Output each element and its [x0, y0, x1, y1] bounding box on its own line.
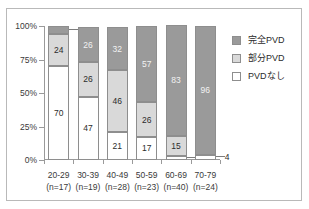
chart-legend: 完全PVD部分PVDPVDなし [232, 36, 285, 90]
bar-value-label: 83 [171, 76, 180, 85]
legend-swatch-full [232, 36, 241, 45]
y-axis-label: 0% [25, 156, 37, 165]
x-axis-tick [161, 160, 162, 164]
legend-swatch-partial [232, 54, 241, 63]
bar-segment-full: 57 [136, 26, 157, 102]
x-axis-tick [191, 160, 192, 164]
y-axis-tick [39, 26, 44, 27]
bar-segment-partial: 46 [107, 70, 128, 132]
stacked-bar: 472626 [78, 26, 99, 160]
stacked-bar: 96 [195, 26, 216, 160]
x-axis-tick [44, 160, 45, 164]
y-axis-label: 75% [20, 55, 37, 64]
y-axis-label: 100% [15, 22, 37, 31]
bar-segment-full: 83 [166, 25, 187, 136]
stacked-bar: 1583 [166, 26, 187, 160]
category-sample-size: (n=24) [183, 181, 227, 193]
chart-figure: 0%25%50%75%100% 670244726262146321726573… [0, 0, 309, 209]
legend-item[interactable]: PVDなし [232, 72, 285, 81]
bar-segment-none: 17 [136, 137, 157, 160]
bar-value-label: 26 [142, 116, 151, 125]
stacked-bar: 7024 [48, 26, 69, 160]
bar-value-label: 70 [54, 109, 63, 118]
legend-swatch-none [232, 72, 241, 81]
y-axis-tick [39, 60, 44, 61]
bar-segment-none: 70 [48, 66, 69, 160]
bar-value-label: 47 [83, 124, 92, 133]
callout-leader-line [216, 156, 225, 157]
bar-segment-partial: 26 [136, 102, 157, 137]
bar-value-label: 15 [171, 142, 180, 151]
bar-segment-full: 32 [107, 27, 128, 70]
plot-axes [44, 26, 220, 160]
bar-value-label: 57 [142, 60, 151, 69]
bar-value-label: 24 [54, 46, 63, 55]
bar-segment-partial: 24 [48, 34, 69, 66]
legend-item[interactable]: 完全PVD [232, 36, 285, 45]
legend-label: PVDなし [248, 72, 285, 81]
y-axis-label: 50% [20, 89, 37, 98]
legend-label: 完全PVD [248, 36, 285, 45]
bar-value-label: 96 [201, 86, 210, 95]
bar-value-label: 32 [113, 45, 122, 54]
bar-value-label: 26 [83, 41, 92, 50]
bar-value-label: 17 [142, 144, 151, 153]
x-axis-tick [220, 160, 221, 164]
bar-segment-none [195, 155, 216, 160]
y-axis-tick [39, 127, 44, 128]
x-axis-tick [103, 160, 104, 164]
x-axis-tick [132, 160, 133, 164]
bar-segment-none: 47 [78, 97, 99, 160]
y-axis-label: 25% [20, 122, 37, 131]
bar-value-label: 21 [113, 142, 122, 151]
bar-value-label: 26 [83, 75, 92, 84]
x-axis-category-label: 70-79(n=24) [183, 169, 227, 194]
category-name: 70-79 [194, 170, 216, 180]
stacked-bar: 214632 [107, 26, 128, 160]
x-axis-tick [73, 160, 74, 164]
bar-value-callout: 4 [225, 153, 230, 162]
bar-segment-full: 26 [78, 27, 99, 62]
y-axis-tick [39, 93, 44, 94]
bar-value-label: 46 [113, 97, 122, 106]
bar-segment-partial: 26 [78, 62, 99, 97]
legend-item[interactable]: 部分PVD [232, 54, 285, 63]
plot-area: 0%25%50%75%100% 670244726262146321726573… [44, 26, 220, 160]
bar-segment-none: 21 [107, 132, 128, 160]
bar-segment-full: 96 [195, 26, 216, 155]
stacked-bar: 172657 [136, 26, 157, 160]
legend-label: 部分PVD [248, 54, 285, 63]
bar-segment-full [48, 26, 69, 34]
bar-segment-none [166, 156, 187, 160]
bar-segment-partial: 15 [166, 136, 187, 156]
